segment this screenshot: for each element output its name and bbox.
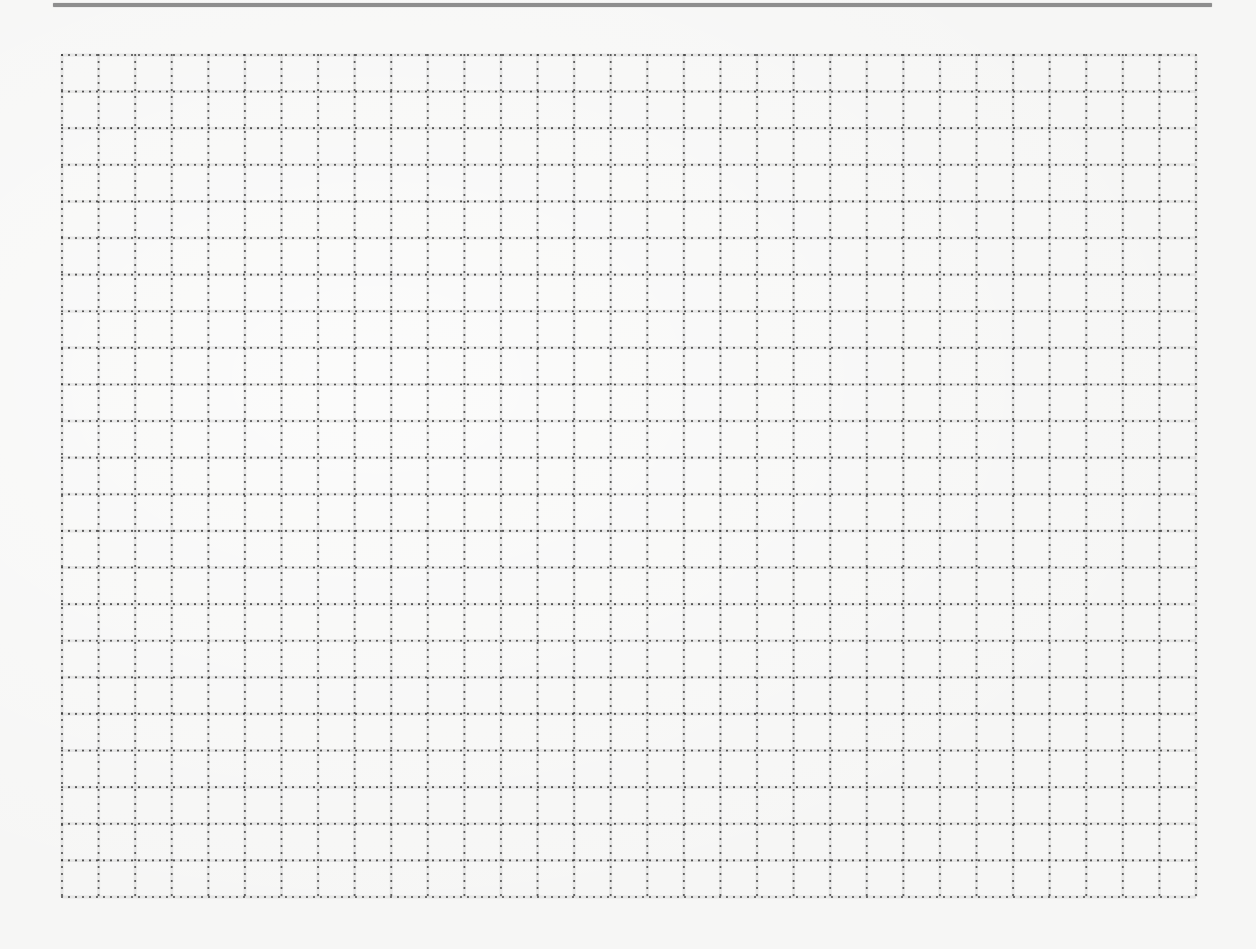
worksheet-page <box>0 0 1256 949</box>
dotted-grid <box>0 0 1256 949</box>
dotted-grid-lines <box>0 0 1256 949</box>
